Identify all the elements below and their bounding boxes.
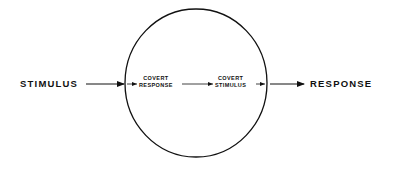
response-label: RESPONSE — [310, 79, 372, 89]
stimulus-label: STIMULUS — [20, 79, 78, 89]
covert-response-label: COVERT RESPONSE — [139, 76, 173, 88]
covert-stimulus-label: COVERT STIMULUS — [215, 76, 246, 88]
